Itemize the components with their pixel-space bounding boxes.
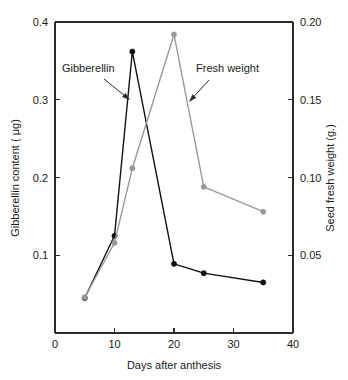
data-point — [261, 209, 266, 214]
data-point — [171, 261, 176, 266]
y-axis-right-tick-label: 0.10 — [300, 172, 321, 184]
y-axis-right-tick-label: 0.15 — [300, 94, 321, 106]
data-point — [130, 166, 135, 171]
x-axis-tick-label: 40 — [287, 338, 299, 350]
data-point — [171, 32, 176, 37]
gibberellin-fresh-weight-line-chart: 010203040 0.10.20.30.4 0.050.100.150.20 … — [0, 0, 348, 380]
y-axis-right-title: Seed fresh weight (g.) — [324, 124, 336, 232]
y-axis-right-tick-labels: 0.050.100.150.20 — [300, 16, 321, 261]
y-axis-left-tick-labels: 0.10.20.30.4 — [33, 16, 48, 261]
x-axis-title: Days after anthesis — [127, 359, 222, 371]
annotation-label: Fresh weight — [196, 62, 259, 74]
x-axis-tick-label: 20 — [168, 338, 180, 350]
y-axis-right-tick-label: 0.20 — [300, 16, 321, 28]
y-axis-right-tick-label: 0.05 — [300, 249, 321, 261]
y-axis-right-ticks — [288, 22, 293, 255]
data-point — [130, 49, 135, 54]
annotation-layer: GibberellinFresh weight — [62, 62, 259, 102]
annotation-fresh-weight: Fresh weight — [189, 62, 259, 102]
y-axis-left-tick-label: 0.2 — [33, 172, 48, 184]
data-point — [261, 280, 266, 285]
data-point — [201, 271, 206, 276]
y-axis-left-tick-label: 0.1 — [33, 249, 48, 261]
x-axis-tick-label: 10 — [108, 338, 120, 350]
chart-figure: 010203040 0.10.20.30.4 0.050.100.150.20 … — [0, 0, 348, 380]
y-axis-left-tick-label: 0.3 — [33, 94, 48, 106]
y-axis-left-ticks — [55, 22, 60, 255]
x-axis-tick-label: 0 — [52, 338, 58, 350]
data-point — [201, 184, 206, 189]
x-axis-tick-label: 30 — [227, 338, 239, 350]
annotation-arrow-line — [104, 79, 125, 96]
annotation-gibberellin: Gibberellin — [62, 62, 130, 100]
y-axis-left-title: Gibberellin content ( μg) — [9, 119, 21, 237]
x-axis-ticks — [55, 328, 293, 333]
data-point — [112, 240, 117, 245]
x-axis-tick-labels: 010203040 — [52, 338, 299, 350]
series-gibberellin — [82, 49, 266, 301]
data-point — [82, 295, 87, 300]
y-axis-left-tick-label: 0.4 — [33, 16, 48, 28]
annotation-label: Gibberellin — [62, 62, 115, 74]
annotation-arrow-line — [193, 80, 209, 98]
